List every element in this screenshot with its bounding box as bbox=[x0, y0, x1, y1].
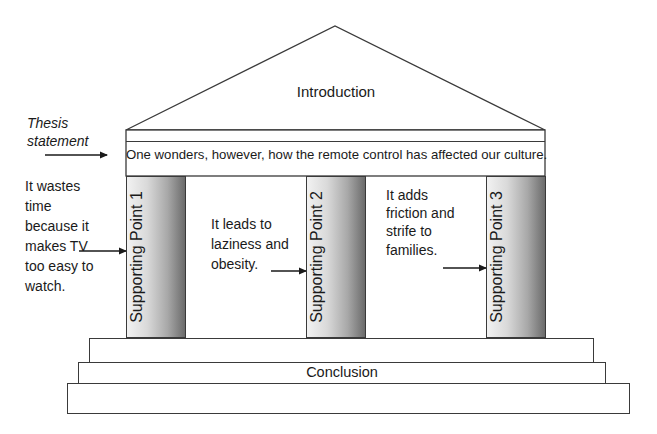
supporting-point-3-note: It adds friction and strife to families. bbox=[386, 186, 456, 259]
column-label: Supporting Point 2 bbox=[307, 177, 327, 337]
column-label: Supporting Point 1 bbox=[127, 177, 147, 337]
column-supporting-point-3: Supporting Point 3 bbox=[486, 176, 546, 338]
supporting-point-2-note: It leads to laziness and obesity. bbox=[211, 214, 301, 274]
roof bbox=[126, 26, 545, 130]
thesis-text: One wonders, however, how the remote con… bbox=[126, 145, 545, 165]
column-supporting-point-1: Supporting Point 1 bbox=[126, 176, 186, 338]
thesis-statement-label: Thesis statement bbox=[27, 114, 117, 150]
foundation-step-base bbox=[67, 383, 630, 414]
foundation-step-conclusion: Conclusion bbox=[78, 362, 606, 384]
supporting-point-1-note: It wastes time because it makes TV too e… bbox=[25, 176, 105, 296]
column-label: Supporting Point 3 bbox=[487, 177, 507, 337]
conclusion-label: Conclusion bbox=[79, 363, 605, 382]
foundation-step-top bbox=[89, 338, 594, 363]
introduction-label: Introduction bbox=[236, 82, 436, 102]
column-supporting-point-2: Supporting Point 2 bbox=[306, 176, 366, 338]
